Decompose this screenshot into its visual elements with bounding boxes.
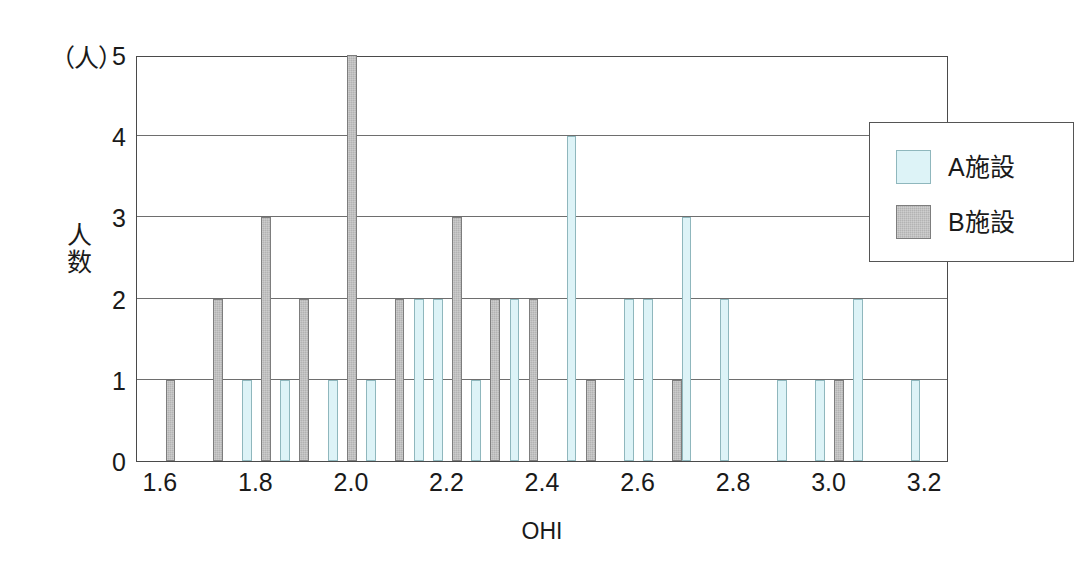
plot-area (136, 56, 948, 462)
histogram-bar (911, 380, 921, 461)
histogram-figure: （人） 人 数 012345 1.61.82.02.22.42.62.83.03… (0, 0, 1087, 581)
legend-label: A施設 (948, 155, 1015, 180)
y-tick-label: 4 (100, 125, 126, 150)
x-tick-label: 2.8 (716, 470, 751, 495)
x-tick-label: 2.4 (525, 470, 560, 495)
histogram-bar (213, 299, 223, 461)
histogram-bar (471, 380, 481, 461)
y-tick-label: 2 (100, 287, 126, 312)
histogram-bar (643, 299, 653, 461)
bars-container (137, 57, 947, 461)
x-tick-label: 2.0 (334, 470, 369, 495)
histogram-bar (242, 380, 252, 461)
histogram-bar (166, 380, 176, 461)
y-tick-label: 3 (100, 206, 126, 231)
histogram-bar (366, 380, 376, 461)
x-axis-tick-labels: 1.61.82.02.22.42.62.83.03.2 (136, 470, 948, 504)
x-axis-title: OHI (136, 518, 948, 545)
legend-item: A施設 (896, 150, 1015, 184)
y-axis-tick-labels: 012345 (96, 56, 126, 462)
histogram-bar (815, 380, 825, 461)
legend: A施設B施設 (869, 122, 1074, 262)
x-tick-label: 3.0 (811, 470, 846, 495)
legend-label: B施設 (948, 210, 1015, 235)
histogram-bar (347, 55, 357, 461)
histogram-bar (672, 380, 682, 461)
histogram-bar (261, 217, 271, 461)
histogram-bar (395, 299, 405, 461)
y-axis-title: 人 数 (62, 222, 96, 276)
x-tick-label: 3.2 (907, 470, 942, 495)
histogram-bar (510, 299, 520, 461)
histogram-bar (853, 299, 863, 461)
y-tick-label: 5 (100, 44, 126, 69)
histogram-bar (490, 299, 500, 461)
histogram-bar (299, 299, 309, 461)
legend-swatch-icon (896, 205, 931, 239)
x-tick-label: 2.6 (620, 470, 655, 495)
histogram-bar (586, 380, 596, 461)
histogram-bar (834, 380, 844, 461)
histogram-bar (567, 136, 577, 461)
legend-swatch-icon (896, 150, 931, 184)
x-tick-label: 2.2 (429, 470, 464, 495)
legend-item: B施設 (896, 205, 1015, 239)
histogram-bar (280, 380, 290, 461)
histogram-bar (529, 299, 539, 461)
y-axis-title-char-1: 人 (62, 222, 96, 249)
x-tick-label: 1.6 (142, 470, 177, 495)
y-tick-label: 1 (100, 368, 126, 393)
histogram-bar (452, 217, 462, 461)
histogram-bar (682, 217, 692, 461)
histogram-bar (720, 299, 730, 461)
x-tick-label: 1.8 (238, 470, 273, 495)
histogram-bar (414, 299, 424, 461)
y-axis-title-char-2: 数 (62, 249, 96, 276)
y-tick-label: 0 (100, 450, 126, 475)
histogram-bar (624, 299, 634, 461)
histogram-bar (328, 380, 338, 461)
histogram-bar (433, 299, 443, 461)
histogram-bar (777, 380, 787, 461)
